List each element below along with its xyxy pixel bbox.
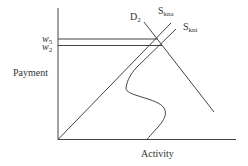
x-axis-label: Activity [141, 148, 174, 159]
supply-curve-kna [58, 23, 171, 140]
y-axis-label: Payment [13, 67, 48, 78]
demand-curve-d2 [144, 22, 214, 112]
diagram-canvas: w5 w2 D2 Skna Skni Payment Activity [0, 0, 248, 166]
skni-label: Skni [183, 21, 198, 34]
skna-label: Skna [158, 5, 175, 18]
d2-label: D2 [130, 11, 141, 24]
